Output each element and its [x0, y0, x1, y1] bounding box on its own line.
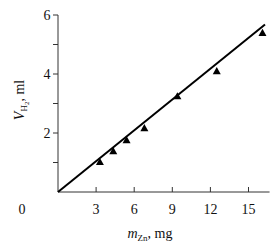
x-tick-label: 12	[203, 202, 217, 217]
y-tick-label: 6	[44, 8, 51, 23]
chart: 03691215246 mZn, mgVH2, ml	[0, 0, 279, 245]
x-tick-label: 15	[242, 202, 256, 217]
x-tick-label: 9	[169, 202, 176, 217]
ticks: 03691215246	[19, 8, 256, 217]
x-tick-label: 6	[131, 202, 138, 217]
regression-line	[58, 24, 265, 192]
y-tick-label: 4	[44, 67, 51, 82]
triangle-marker	[213, 67, 221, 74]
x-tick-label: 0	[19, 202, 26, 217]
x-tick-label: 3	[93, 202, 100, 217]
data-points	[96, 29, 267, 165]
y-tick-label: 2	[44, 126, 51, 141]
axis-labels: mZn, mgVH2, ml	[12, 80, 173, 243]
fit-line	[58, 24, 265, 192]
x-axis-label: mZn, mg	[127, 226, 172, 243]
y-axis-label: VH2, ml	[12, 80, 31, 120]
